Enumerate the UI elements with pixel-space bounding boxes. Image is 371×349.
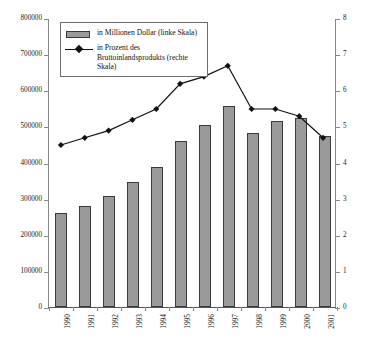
- x-tick-label: 2000: [304, 314, 311, 329]
- y-tick-left: [44, 272, 49, 273]
- x-tick-label: 1990: [64, 314, 71, 329]
- line-marker: [58, 142, 64, 148]
- y-tick-left: [44, 55, 49, 56]
- y-tick-right: [335, 127, 340, 128]
- bar: [175, 141, 187, 307]
- x-tick: [169, 307, 170, 311]
- bar: [223, 106, 235, 307]
- y-tick-label-right: 0: [343, 304, 347, 311]
- y-tick-label-left: 0: [38, 304, 42, 311]
- bar: [151, 167, 163, 307]
- y-tick-label-right: 1: [343, 268, 347, 275]
- y-tick-right: [335, 236, 340, 237]
- x-tick-label: 1992: [112, 314, 119, 329]
- line-marker: [272, 106, 278, 112]
- chart-container: 0100000200000300000400000500000600000700…: [0, 0, 371, 349]
- legend-label-bar: in Millionen Dollar (linke Skala): [97, 28, 197, 38]
- bar: [295, 118, 307, 307]
- bar: [103, 196, 115, 307]
- x-tick: [265, 307, 266, 311]
- bar: [271, 121, 283, 307]
- bar: [199, 125, 211, 307]
- line-marker-icon: [65, 44, 93, 55]
- y-tick-left: [44, 200, 49, 201]
- x-tick: [193, 307, 194, 311]
- x-tick-label: 1993: [136, 314, 143, 329]
- x-tick-label: 1996: [208, 314, 215, 329]
- bar: [127, 182, 139, 307]
- y-tick-left: [44, 91, 49, 92]
- y-tick-label-left: 500000: [20, 124, 42, 131]
- y-tick-right: [335, 91, 340, 92]
- y-tick-label-left: 800000: [20, 15, 42, 22]
- y-tick-right: [335, 272, 340, 273]
- x-tick: [73, 307, 74, 311]
- bar: [319, 136, 331, 307]
- bar: [79, 206, 91, 308]
- x-tick: [241, 307, 242, 311]
- x-tick: [145, 307, 146, 311]
- x-tick-label: 1997: [232, 314, 239, 329]
- bar: [247, 133, 259, 307]
- x-tick-label: 1998: [256, 314, 263, 329]
- x-tick: [313, 307, 314, 311]
- x-tick: [121, 307, 122, 311]
- x-tick-label: 1995: [184, 314, 191, 329]
- bar: [55, 213, 67, 307]
- line-marker: [177, 81, 183, 87]
- y-tick-label-left: 700000: [20, 52, 42, 59]
- x-tick-label: 2001: [328, 314, 335, 329]
- bar-swatch-icon: [65, 29, 93, 40]
- y-tick-label-left: 300000: [20, 196, 42, 203]
- line-path: [61, 66, 323, 145]
- y-tick-label-right: 6: [343, 88, 347, 95]
- y-tick-left: [44, 236, 49, 237]
- line-marker: [249, 106, 255, 112]
- x-tick-label: 1999: [280, 314, 287, 329]
- x-tick-label: 1994: [160, 314, 167, 329]
- y-tick-label-left: 600000: [20, 88, 42, 95]
- x-tick-label: 1991: [88, 314, 95, 329]
- line-marker: [225, 63, 231, 69]
- line-marker: [82, 135, 88, 141]
- y-tick-left: [44, 19, 49, 20]
- y-tick-left: [44, 127, 49, 128]
- x-tick: [289, 307, 290, 311]
- legend-label-line: in Prozent des Bruttoinlandsprodukts (re…: [97, 43, 203, 72]
- y-tick-label-right: 5: [343, 124, 347, 131]
- legend-item-line: in Prozent des Bruttoinlandsprodukts (re…: [65, 43, 203, 72]
- y-tick-right: [335, 19, 340, 20]
- y-tick-label-right: 2: [343, 232, 347, 239]
- legend-item-bar: in Millionen Dollar (linke Skala): [65, 28, 203, 40]
- x-tick: [97, 307, 98, 311]
- y-tick-label-right: 8: [343, 15, 347, 22]
- y-tick-label-right: 3: [343, 196, 347, 203]
- y-tick-label-right: 7: [343, 52, 347, 59]
- y-tick-label-left: 200000: [20, 232, 42, 239]
- line-marker: [106, 128, 112, 134]
- x-tick: [337, 307, 338, 311]
- y-tick-right: [335, 164, 340, 165]
- y-tick-label-right: 4: [343, 160, 347, 167]
- y-tick-left: [44, 164, 49, 165]
- x-tick: [49, 307, 50, 311]
- chart-legend: in Millionen Dollar (linke Skala) in Pro…: [60, 22, 208, 77]
- x-tick: [217, 307, 218, 311]
- y-tick-label-left: 400000: [20, 160, 42, 167]
- line-marker: [153, 106, 159, 112]
- y-tick-label-left: 100000: [20, 268, 42, 275]
- line-marker: [129, 117, 135, 123]
- y-tick-right: [335, 55, 340, 56]
- y-tick-right: [335, 200, 340, 201]
